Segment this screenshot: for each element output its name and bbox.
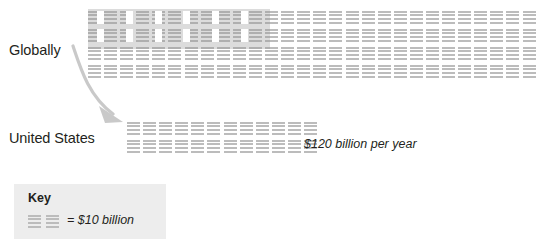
building-icon (297, 64, 310, 79)
building-icon (506, 28, 519, 43)
building-icon (523, 46, 536, 61)
building-icon (490, 10, 503, 25)
building-icon (143, 139, 156, 154)
building-icon (224, 139, 237, 154)
building-icon (474, 46, 487, 61)
building-icon (297, 10, 310, 25)
building-icon (442, 10, 455, 25)
building-icon (426, 28, 439, 43)
building-icon (88, 10, 101, 25)
building-icon (329, 28, 342, 43)
building-icon (249, 64, 262, 79)
building-icon (458, 64, 471, 79)
building-icon (175, 139, 188, 154)
building-icon (136, 10, 149, 25)
building-icon (362, 28, 375, 43)
building-icon (88, 28, 101, 43)
building-icon (523, 28, 536, 43)
building-icon (378, 64, 391, 79)
building-icon (329, 64, 342, 79)
building-icon (378, 46, 391, 61)
building-icon (458, 28, 471, 43)
legend-title: Key (28, 191, 51, 205)
building-icon (523, 64, 536, 79)
building-icon (297, 46, 310, 61)
pictogram-icon-row (127, 139, 320, 157)
building-icon (249, 46, 262, 61)
building-icon (281, 64, 294, 79)
building-icon (207, 121, 220, 136)
building-icon (233, 10, 246, 25)
building-icon (217, 64, 230, 79)
building-icon (313, 28, 326, 43)
building-icon (265, 46, 278, 61)
building-icon (410, 28, 423, 43)
building-icon (143, 121, 156, 136)
building-icon (329, 46, 342, 61)
building-icon (201, 64, 214, 79)
building-icon (272, 139, 285, 154)
building-icon (46, 214, 59, 229)
building-icon (442, 46, 455, 61)
building-icon (362, 46, 375, 61)
building-icon (378, 28, 391, 43)
building-icon (458, 46, 471, 61)
pictogram-grid-united-states (127, 121, 320, 157)
pictogram-icon-row (88, 10, 539, 28)
building-icon (265, 28, 278, 43)
building-icon (104, 28, 117, 43)
building-icon (410, 64, 423, 79)
building-icon (152, 28, 165, 43)
building-icon (159, 121, 172, 136)
building-icon (185, 28, 198, 43)
building-icon (185, 10, 198, 25)
building-icon (168, 10, 181, 25)
legend-entry-label: = $10 billion (67, 213, 134, 227)
building-icon (104, 10, 117, 25)
building-icon (288, 139, 301, 154)
building-icon (378, 10, 391, 25)
row-label-united-states: United States (9, 130, 95, 146)
building-icon (201, 10, 214, 25)
building-icon (168, 28, 181, 43)
building-icon (191, 139, 204, 154)
building-icon (233, 46, 246, 61)
building-icon (313, 10, 326, 25)
building-icon (410, 46, 423, 61)
building-icon (217, 28, 230, 43)
building-icon (207, 139, 220, 154)
building-icon (394, 10, 407, 25)
building-icon (191, 121, 204, 136)
building-icon (346, 46, 359, 61)
building-icon (313, 46, 326, 61)
building-icon (490, 28, 503, 43)
building-icon (281, 10, 294, 25)
building-icon (506, 46, 519, 61)
building-icon (249, 10, 262, 25)
building-icon (265, 64, 278, 79)
building-icon (224, 121, 237, 136)
building-icon (394, 64, 407, 79)
building-icon (201, 46, 214, 61)
building-icon (272, 121, 285, 136)
building-icon (362, 64, 375, 79)
building-icon (394, 46, 407, 61)
building-icon (256, 139, 269, 154)
building-icon (506, 10, 519, 25)
building-icon (426, 46, 439, 61)
building-icon (185, 64, 198, 79)
building-icon (313, 64, 326, 79)
building-icon (249, 28, 262, 43)
building-icon (120, 28, 133, 43)
building-icon (442, 28, 455, 43)
building-icon (410, 10, 423, 25)
building-icon (281, 46, 294, 61)
building-icon (458, 10, 471, 25)
building-icon (152, 10, 165, 25)
building-icon (240, 139, 253, 154)
building-icon (297, 28, 310, 43)
building-icon (127, 139, 140, 154)
building-icon (426, 64, 439, 79)
building-icon (136, 28, 149, 43)
